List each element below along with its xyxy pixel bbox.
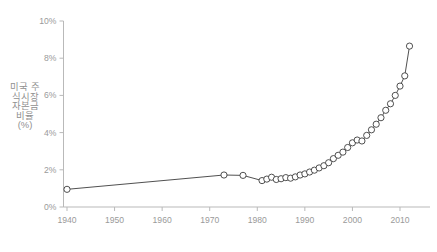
x-tick-label: 2000 xyxy=(343,215,362,225)
y-axis: 0%2%4%6%8%10% xyxy=(39,16,63,212)
data-point-marker xyxy=(387,101,393,107)
data-point-marker xyxy=(406,43,412,49)
series-group xyxy=(64,43,413,192)
data-point-marker xyxy=(340,149,346,155)
data-point-marker xyxy=(364,132,370,138)
chart-container: 미국 주식시장 자본금 비율(%) 0%2%4%6%8%10% 19401950… xyxy=(0,0,437,252)
y-tick-label: 8% xyxy=(44,53,57,63)
y-tick-label: 4% xyxy=(44,128,57,138)
data-point-marker xyxy=(359,138,365,144)
x-tick-label: 1960 xyxy=(153,215,172,225)
y-tick-label: 6% xyxy=(44,90,57,100)
data-point-marker xyxy=(392,92,398,98)
data-point-marker xyxy=(402,73,408,79)
x-tick-label: 1970 xyxy=(200,215,219,225)
line-chart: 0%2%4%6%8%10% 19401950196019701980199020… xyxy=(0,0,437,252)
data-point-marker xyxy=(368,127,374,133)
x-tick-label: 1980 xyxy=(248,215,267,225)
x-tick-label: 1940 xyxy=(57,215,76,225)
data-point-marker xyxy=(345,144,351,150)
x-axis: 19401950196019701980199020002010 xyxy=(57,207,430,225)
data-point-marker xyxy=(373,121,379,127)
y-tick-label: 2% xyxy=(44,165,57,175)
y-tick-label: 10% xyxy=(39,16,57,26)
y-tick-label: 0% xyxy=(44,202,57,212)
x-tick-label: 1950 xyxy=(105,215,124,225)
data-point-marker xyxy=(378,115,384,121)
x-tick-label: 1990 xyxy=(295,215,314,225)
data-point-marker xyxy=(383,107,389,113)
series-line xyxy=(67,46,410,189)
data-point-marker xyxy=(397,83,403,89)
data-point-marker xyxy=(221,172,227,178)
data-point-marker xyxy=(240,172,246,178)
data-point-marker xyxy=(64,186,70,192)
x-tick-label: 2010 xyxy=(390,215,409,225)
